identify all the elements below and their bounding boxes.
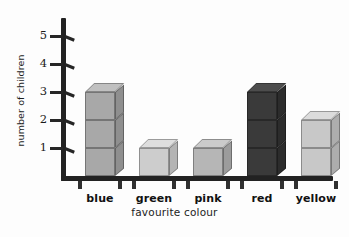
cube-front-face [85,148,115,176]
cube-unit [85,92,115,120]
x-axis-tick-green-left [132,181,136,189]
x-axis-tick-pink-left [186,181,190,189]
x-axis-label-pink: pink [178,192,238,205]
cube-unit [247,148,277,176]
bar-green [139,139,178,176]
x-axis-label-red: red [232,192,292,205]
cube-unit [247,120,277,148]
x-axis-tick-yellow-left [294,181,298,189]
x-axis-tick-green-right [172,181,176,189]
x-axis-tick-pink-right [226,181,230,189]
y-axis-tick-label: 2 [32,112,47,126]
x-axis-tick-blue-right [118,181,122,189]
x-axis-tick-blue-left [78,181,82,189]
y-axis-tick-label: 1 [32,140,47,154]
cube-front-face [247,92,277,120]
cube-unit [85,148,115,176]
bar-red [247,83,286,176]
y-axis-title: number of children [15,41,26,161]
x-axis-tick-red-right [280,181,284,189]
y-axis-line [61,18,66,181]
cube-unit [301,148,331,176]
x-axis-label-blue: blue [70,192,130,205]
x-axis-tick-yellow-right [334,181,338,189]
cube-front-face [85,120,115,148]
cube-front-face [247,148,277,176]
cube-unit [139,148,169,176]
y-axis-tick-1 [50,147,63,151]
y-axis-tick-4 [50,63,63,67]
bar-yellow [301,111,340,176]
x-axis-line [61,176,333,181]
bar-pink [193,139,232,176]
cube-front-face [139,148,169,176]
x-axis-label-green: green [124,192,184,205]
cube-unit [193,148,223,176]
y-axis-tick-2 [50,119,63,123]
cube-front-face [301,120,331,148]
y-axis-tick-3 [50,91,63,95]
cube-unit [301,120,331,148]
y-axis-tick-label: 3 [32,84,47,98]
x-axis-tick-red-left [240,181,244,189]
cube-front-face [247,120,277,148]
y-axis-tick-5 [50,35,63,39]
x-axis-title: favourite colour [0,206,349,218]
cube-unit [247,92,277,120]
cube-front-face [85,92,115,120]
cube-front-face [193,148,223,176]
cube-unit [85,120,115,148]
y-axis-tick-label: 4 [32,56,47,70]
bar-blue [85,83,124,176]
x-axis-label-yellow: yellow [286,192,346,205]
bar-chart: number of children 12345 bluegreenpinkre… [0,0,349,237]
cube-front-face [301,148,331,176]
y-axis-tick-label: 5 [32,28,47,42]
